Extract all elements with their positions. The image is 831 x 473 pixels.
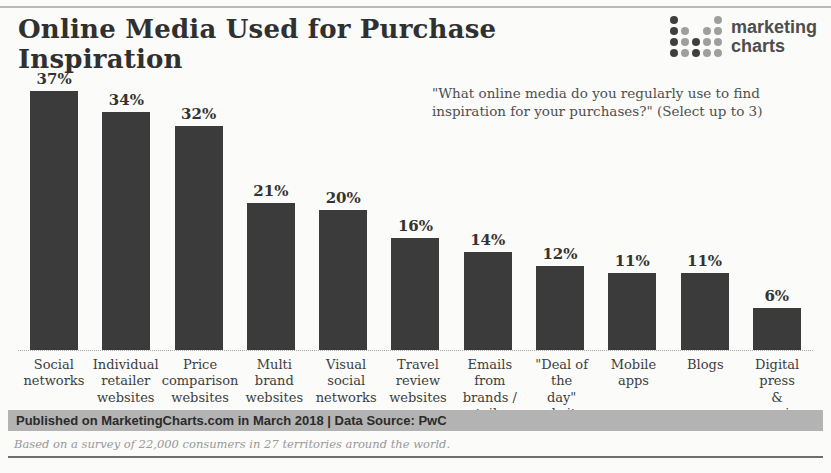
bar-column: 11% (596, 252, 668, 350)
dot (714, 49, 722, 57)
page-title: Online Media Used for Purchase Inspirati… (18, 14, 670, 74)
dot (670, 49, 678, 57)
bar (247, 203, 295, 350)
bar-value-label: 16% (398, 217, 433, 235)
dot (681, 27, 689, 35)
top-divider (0, 6, 831, 8)
dot (703, 27, 711, 35)
dot (692, 38, 700, 46)
dot-empty (692, 27, 700, 35)
dot (703, 49, 711, 57)
dot (670, 16, 678, 24)
dot (692, 49, 700, 57)
chart-card: Online Media Used for Purchase Inspirati… (0, 0, 831, 473)
dot (714, 38, 722, 46)
bar (175, 126, 223, 350)
dot (681, 38, 689, 46)
bar (102, 112, 150, 350)
bar-value-label: 11% (615, 252, 650, 270)
publication-bar: Published on MarketingCharts.com in Marc… (8, 410, 823, 431)
bottom-divider (8, 456, 823, 458)
dot-bar-chart-icon (670, 16, 722, 57)
bar-column: 12% (524, 245, 596, 350)
bar-value-label: 32% (181, 105, 216, 123)
bar-column: 21% (235, 182, 307, 350)
bar-value-label: 20% (326, 189, 361, 207)
bar-column: 20% (307, 189, 379, 350)
bar-column: 14% (452, 231, 524, 350)
bar-value-label: 6% (764, 287, 789, 305)
bar (391, 238, 439, 350)
bar-column: 34% (90, 91, 162, 350)
source-note: Based on a survey of 22,000 consumers in… (14, 437, 450, 451)
dot (681, 49, 689, 57)
bar (536, 266, 584, 350)
bar-chart: 37%34%32%21%20%16%14%12%11%11%6% Social … (18, 68, 813, 422)
bar-column: 6% (741, 287, 813, 350)
dot (714, 27, 722, 35)
bar (608, 273, 656, 350)
dot (703, 38, 711, 46)
bars-row: 37%34%32%21%20%16%14%12%11%11%6% (18, 68, 813, 351)
bar-value-label: 21% (253, 182, 288, 200)
logo-word-1: marketing (731, 18, 817, 37)
bar (681, 273, 729, 350)
dot (670, 38, 678, 46)
bar-value-label: 37% (37, 70, 72, 88)
dot-empty (681, 16, 689, 24)
bar (319, 210, 367, 350)
logo-wordmark: marketing charts (731, 18, 817, 56)
bar-column: 32% (163, 105, 235, 350)
dot-empty (703, 16, 711, 24)
bar-column: 11% (668, 252, 740, 350)
bar (30, 91, 78, 350)
bar-column: 16% (379, 217, 451, 350)
dot (670, 27, 678, 35)
bar (464, 252, 512, 350)
logo-word-2: charts (731, 37, 817, 56)
dot (714, 16, 722, 24)
bar-value-label: 34% (109, 91, 144, 109)
marketingcharts-logo: marketing charts (670, 16, 817, 57)
bar (753, 308, 801, 350)
header: Online Media Used for Purchase Inspirati… (18, 14, 817, 74)
dot-empty (692, 16, 700, 24)
bar-value-label: 11% (687, 252, 722, 270)
bar-column: 37% (18, 70, 90, 350)
bar-value-label: 14% (470, 231, 505, 249)
bar-value-label: 12% (542, 245, 577, 263)
